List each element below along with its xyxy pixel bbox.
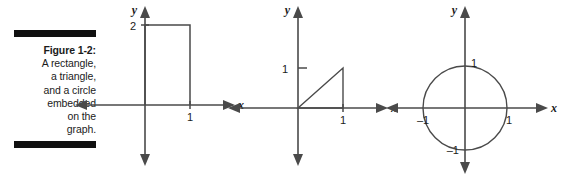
y-axis-up-arrow-icon — [293, 6, 303, 18]
y-tick-label-2: 2 — [130, 20, 136, 32]
y-axis-up-arrow-icon — [460, 6, 470, 18]
y-axis-up-arrow-icon — [140, 6, 150, 18]
rectangle-shape — [145, 25, 190, 105]
y-tick-label-neg1: –1 — [447, 144, 459, 156]
circle-graph: 1 –1 –1 1 y x — [378, 0, 562, 178]
x-tick-label-neg1: –1 — [417, 114, 429, 126]
x-axis-left-arrow-icon — [386, 103, 398, 113]
y-axis-label: y — [450, 3, 458, 17]
triangle-shape — [298, 68, 343, 108]
triangle-graph-svg: 1 1 y x — [218, 0, 403, 178]
circle-graph-svg: 1 –1 –1 1 y x — [378, 0, 562, 178]
x-tick-label-1: 1 — [187, 111, 193, 123]
x-axis-label: x — [550, 101, 557, 115]
x-tick-label-1: 1 — [506, 114, 512, 126]
y-axis-label: y — [283, 3, 291, 17]
y-axis-label: y — [130, 3, 138, 17]
x-tick-label-1: 1 — [340, 114, 346, 126]
y-axis-down-arrow-icon — [460, 162, 470, 174]
x-axis-right-arrow-icon — [536, 103, 548, 113]
x-axis-left-arrow-icon — [228, 103, 240, 113]
triangle-graph: 1 1 y x — [218, 0, 403, 178]
y-tick-label-1: 1 — [471, 57, 477, 69]
y-tick-label-1: 1 — [282, 63, 288, 75]
y-axis-down-arrow-icon — [293, 154, 303, 166]
y-axis-down-arrow-icon — [140, 154, 150, 166]
x-axis-left-arrow-icon — [75, 100, 87, 110]
